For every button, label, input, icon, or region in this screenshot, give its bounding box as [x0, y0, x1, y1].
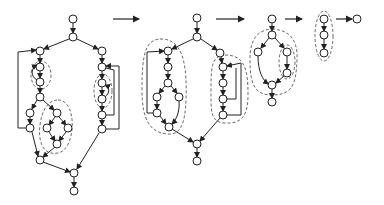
graph-node [70, 169, 78, 177]
graph-node [283, 48, 291, 56]
graph-node [26, 109, 34, 117]
stage-5-graph [353, 15, 361, 23]
graph-node [36, 93, 44, 101]
graph-node [69, 33, 77, 41]
graph-node [320, 15, 328, 23]
stage-4-graph [315, 11, 333, 61]
graph-node [193, 33, 201, 41]
graph-node [320, 49, 328, 57]
graph-node [98, 111, 106, 119]
graph-node [43, 124, 51, 132]
graph-node [219, 111, 227, 119]
graph-node [193, 157, 201, 165]
graph-node [219, 95, 227, 103]
graph-node [175, 93, 183, 101]
graph-node [193, 140, 201, 148]
graph-node [216, 49, 224, 57]
graph-node [53, 109, 61, 117]
graph-node [70, 187, 78, 195]
graph-node [219, 63, 227, 71]
graph-node [153, 93, 161, 101]
graph-node [219, 79, 227, 87]
graph-node [268, 98, 276, 106]
graph-node [254, 48, 262, 56]
graph-node [268, 15, 276, 23]
graph-node [36, 47, 44, 55]
graph-node [193, 14, 201, 22]
graph-node [268, 31, 276, 39]
graph-node [53, 140, 61, 148]
graph-reduction-diagram [0, 0, 384, 205]
graph-node [98, 63, 106, 71]
graph-node [64, 124, 72, 132]
graph-node [98, 125, 106, 133]
graph-node [98, 47, 106, 55]
graph-node [36, 63, 44, 71]
graph-node [164, 47, 172, 55]
graph-node [320, 31, 328, 39]
stage-3-graph [250, 15, 297, 106]
graph-node [164, 63, 172, 71]
graph-node [69, 15, 77, 23]
graph-node [164, 79, 172, 87]
graph-node [165, 123, 173, 131]
graph-node [353, 15, 361, 23]
graph-node [268, 81, 276, 89]
graph-node [26, 124, 34, 132]
stage-2-graph [142, 14, 248, 165]
graph-node [283, 69, 291, 77]
graph-node [98, 79, 106, 87]
graph-node [36, 78, 44, 86]
graph-node [98, 95, 106, 103]
stage-1-graph [18, 15, 119, 195]
graph-node [36, 156, 44, 164]
graph-node [153, 109, 161, 117]
